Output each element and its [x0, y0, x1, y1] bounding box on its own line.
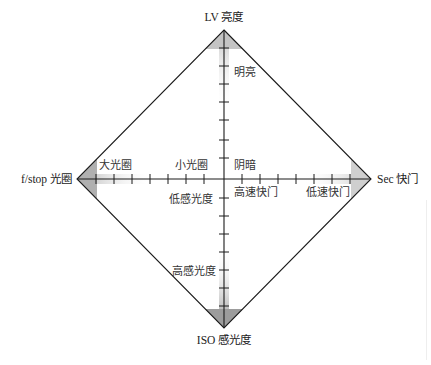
vertex-label-iso: ISO 感光度 — [197, 333, 252, 346]
label-large-aperture: 大光圈 — [99, 158, 132, 172]
label-dark: 阴暗 — [234, 158, 256, 172]
exposure-diamond-diagram: LV 亮度 f/stop 光圈 Sec 快门 ISO 感光度 明亮 阴暗 大光圈… — [0, 0, 431, 365]
label-small-aperture: 小光圈 — [175, 158, 208, 172]
label-slow-shutter: 低速快门 — [306, 185, 350, 199]
label-bright: 明亮 — [234, 65, 256, 79]
vertex-label-lv: LV 亮度 — [205, 10, 245, 23]
label-high-iso: 高感光度 — [172, 264, 216, 278]
scan-edge-artifact — [426, 200, 427, 360]
label-low-iso: 低感光度 — [169, 192, 213, 206]
vertex-label-sec: Sec 快门 — [377, 172, 418, 185]
vertex-label-fstop: f/stop 光圈 — [21, 172, 72, 186]
label-fast-shutter: 高速快门 — [234, 185, 278, 199]
